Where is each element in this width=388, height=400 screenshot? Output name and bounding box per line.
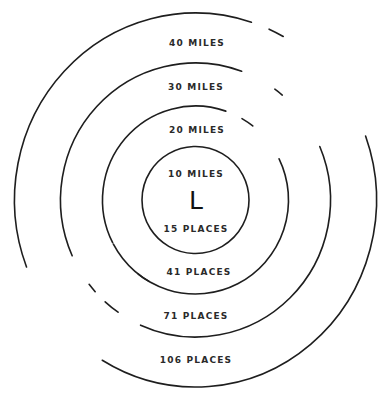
ring-3-arc-2 bbox=[275, 89, 282, 95]
ring-4-arc-2 bbox=[269, 29, 283, 36]
center-location-letter: L bbox=[189, 188, 203, 213]
ring-2-arc-2 bbox=[242, 119, 253, 126]
ring-4-arc-3 bbox=[102, 136, 376, 387]
ring-2-distance-label: 20 MILES bbox=[169, 125, 225, 135]
ring-3-arc-5 bbox=[89, 284, 95, 291]
ring-4-places-label: 106 PLACES bbox=[160, 355, 232, 365]
ring-4-distance-label: 40 MILES bbox=[169, 38, 225, 48]
ring-2-places-label: 41 PLACES bbox=[167, 267, 232, 277]
ring-3-arc-4 bbox=[105, 302, 118, 312]
ring-1-places-label: 15 PLACES bbox=[164, 224, 229, 234]
ring-2-arc-4 bbox=[138, 274, 149, 281]
ring-1-distance-label: 10 MILES bbox=[168, 169, 224, 179]
ring-3-distance-label: 30 MILES bbox=[168, 82, 224, 92]
ring-3-places-label: 71 PLACES bbox=[164, 311, 229, 321]
